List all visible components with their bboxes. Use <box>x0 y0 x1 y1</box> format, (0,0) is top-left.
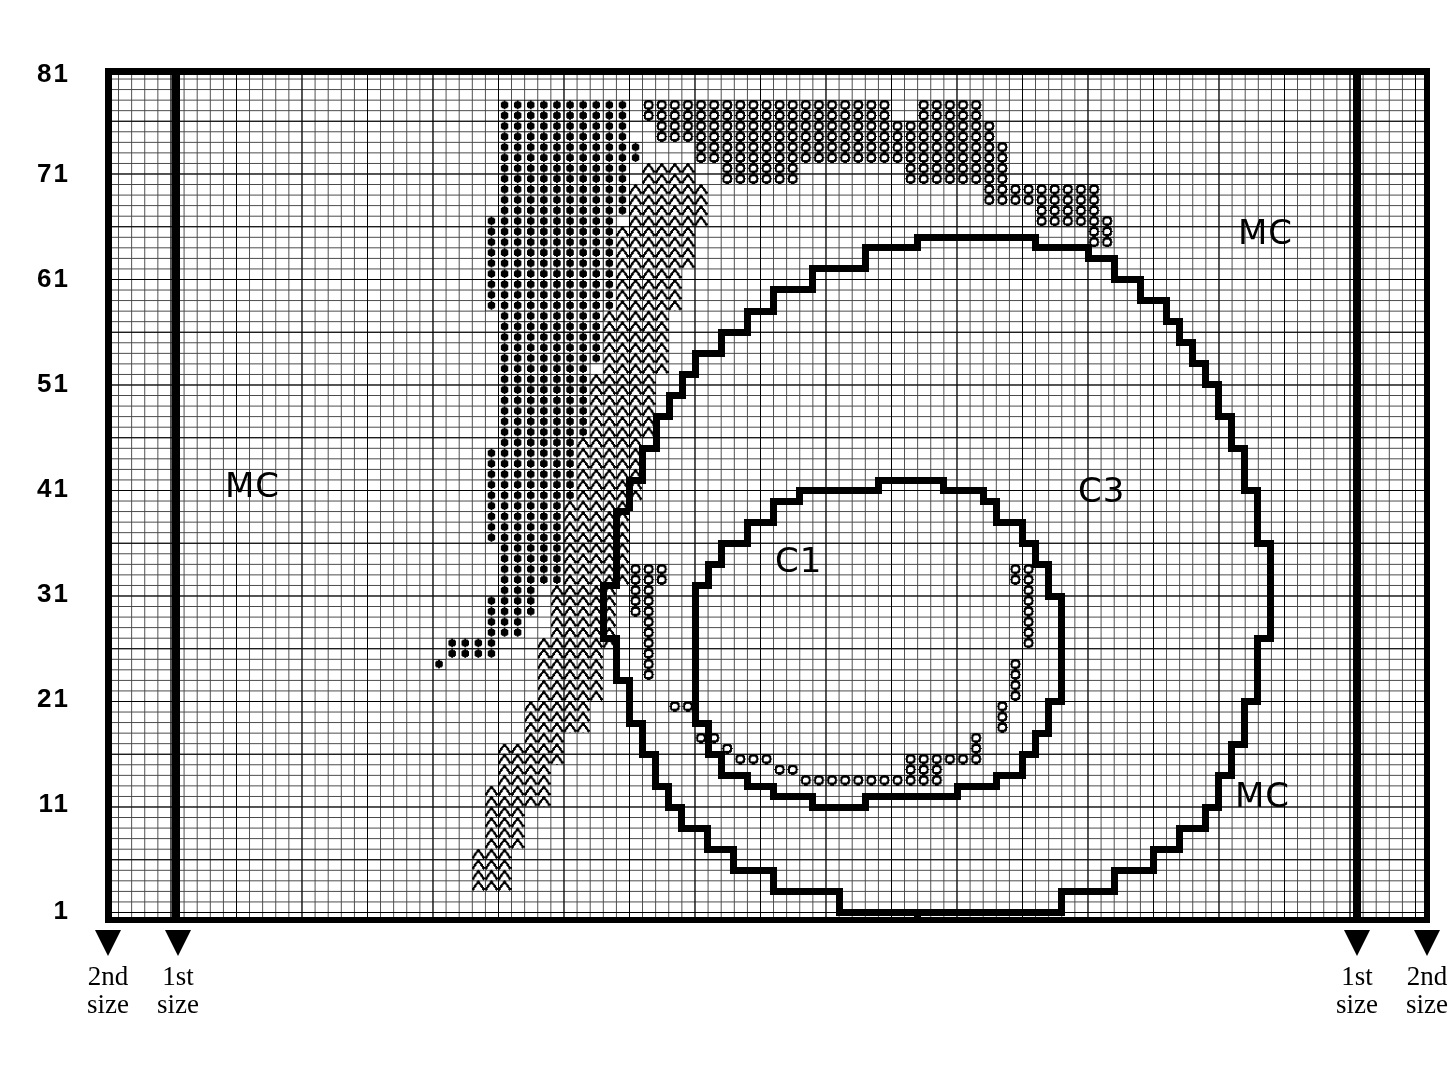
down-arrow-icon <box>1414 930 1440 956</box>
down-arrow-icon <box>1344 930 1370 956</box>
annotation-mc-left: MC <box>225 465 280 505</box>
row-label-81: 81 <box>10 58 70 89</box>
annotation-c3: C3 <box>1078 470 1125 510</box>
row-label-31: 31 <box>10 578 70 609</box>
left-1st-size-word: size <box>133 990 223 1018</box>
annotation-c1: C1 <box>775 540 822 580</box>
row-label-11: 11 <box>10 788 70 819</box>
row-label-1: 1 <box>10 895 70 926</box>
left-1st-size-ordinal: 1st <box>133 962 223 990</box>
annotation-mc-top-right: MC <box>1238 212 1293 252</box>
chart-grid <box>105 68 1430 923</box>
grid-major <box>105 68 1430 923</box>
row-label-51: 51 <box>10 368 70 399</box>
left-1st-size-marker: 1st size <box>133 930 223 1019</box>
row-label-71: 71 <box>10 158 70 189</box>
row-label-21: 21 <box>10 683 70 714</box>
chart-grid-svg <box>105 68 1430 923</box>
row-label-61: 61 <box>10 263 70 294</box>
knitting-chart: 81 71 61 51 41 31 21 11 1 <box>0 0 1453 1083</box>
right-2nd-size-word: size <box>1382 990 1453 1018</box>
down-arrow-icon <box>95 930 121 956</box>
down-arrow-icon <box>165 930 191 956</box>
row-label-41: 41 <box>10 473 70 504</box>
right-2nd-size-ordinal: 2nd <box>1382 962 1453 990</box>
annotation-mc-bottom-right: MC <box>1235 775 1290 815</box>
right-2nd-size-marker: 2nd size <box>1382 930 1453 1019</box>
